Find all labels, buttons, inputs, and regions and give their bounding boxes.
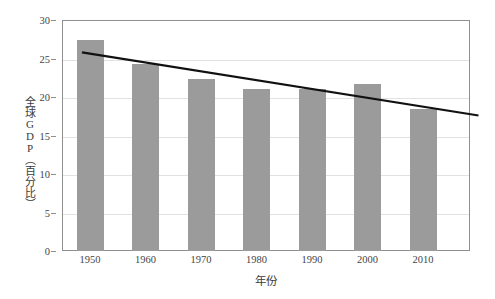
y-axis-tick-mark [51, 136, 56, 137]
trend-line-layer [62, 20, 470, 251]
y-axis-tick-label: 5 [45, 207, 50, 218]
x-axis-tick-label: 2000 [357, 254, 378, 265]
x-axis-tick-label: 2010 [413, 254, 434, 265]
y-axis-tick-mark [51, 97, 56, 98]
chart-container: 全球GDP（百分比） 051015202530 1950196019701980… [0, 0, 495, 299]
x-axis-tick-label: 1960 [135, 254, 156, 265]
x-axis-tick-label: 1990 [302, 254, 323, 265]
y-axis-tick-mark [51, 59, 56, 60]
y-axis-tick-label: 30 [40, 15, 51, 26]
y-axis-tick-mark [51, 174, 56, 175]
trend-line [82, 52, 479, 115]
y-axis-tick-mark [51, 213, 56, 214]
x-axis-title: 年份 [62, 272, 470, 288]
y-axis-tick-labels: 051015202530 [30, 20, 56, 251]
x-axis-tick-label: 1950 [80, 254, 101, 265]
y-axis-tick-label: 0 [45, 246, 50, 257]
y-axis-tick-label: 20 [40, 92, 51, 103]
x-axis-tick-label: 1980 [246, 254, 267, 265]
x-axis-tick-labels: 1950196019701980199020002010 [62, 254, 470, 272]
y-axis-tick-label: 25 [40, 53, 51, 64]
x-axis-tick-label: 1970 [191, 254, 212, 265]
y-axis-tick-mark [51, 20, 56, 21]
y-axis-tick-mark [51, 251, 56, 252]
y-axis-tick-label: 10 [40, 169, 51, 180]
y-axis-tick-label: 15 [40, 130, 51, 141]
